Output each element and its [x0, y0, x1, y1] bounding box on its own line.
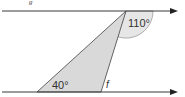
top-arrow-icon	[170, 8, 178, 14]
parallel-lines-diagram: 110° 40° f g	[0, 0, 185, 97]
shaded-triangle	[37, 11, 126, 92]
angle-40-label: 40°	[52, 79, 69, 91]
top-mark-label: g	[29, 0, 33, 5]
bottom-arrow-icon	[170, 89, 178, 95]
angle-110-label: 110°	[128, 17, 150, 29]
angle-f-label: f	[106, 79, 110, 90]
